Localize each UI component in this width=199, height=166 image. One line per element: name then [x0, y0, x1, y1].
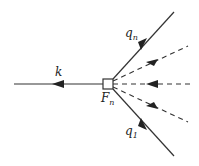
diagram-lines [0, 0, 199, 166]
dashed-middle-arrow-icon [146, 80, 158, 88]
k-label: k [55, 66, 62, 78]
qn-label: qn [125, 27, 138, 42]
q1-line [113, 89, 174, 156]
k-arrow-icon [52, 80, 64, 88]
vertex-box [103, 79, 113, 89]
vertex-label: Fn [101, 92, 114, 107]
feynman-vertex-diagram: k Fn qn q1 [0, 0, 199, 166]
q1-label: q1 [125, 125, 138, 140]
qn-line [113, 12, 174, 79]
